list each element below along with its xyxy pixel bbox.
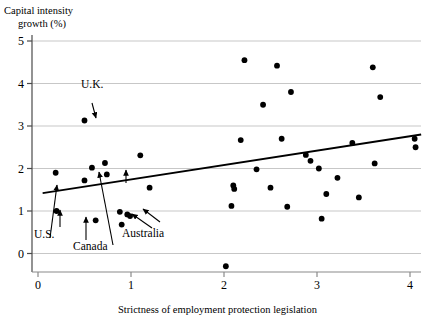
data-point [53, 170, 59, 176]
data-point [93, 217, 99, 223]
y-tick-label-2: 2 [18, 162, 24, 176]
y-tick-label-3: 3 [18, 119, 24, 133]
data-point [147, 185, 153, 191]
x-tick-label-3: 3 [314, 278, 320, 292]
data-point [370, 64, 376, 70]
data-point [231, 186, 237, 192]
data-point [260, 102, 266, 108]
x-tick-label-2: 2 [221, 278, 227, 292]
data-point [288, 89, 294, 95]
data-point [104, 172, 110, 178]
data-point [316, 166, 322, 172]
y-tick-label-1: 1 [18, 204, 24, 218]
data-point [349, 140, 355, 146]
data-point [117, 209, 123, 215]
data-point [274, 63, 280, 69]
data-point [82, 178, 88, 184]
annotation-label-australia: Australia [122, 227, 164, 239]
data-point [268, 185, 274, 191]
data-point [412, 136, 418, 142]
plot-area: 01234501234U.K.U.S.CanadaAustralia [0, 0, 429, 322]
data-point [413, 144, 419, 150]
data-point [254, 166, 260, 172]
x-tick-label-0: 0 [35, 278, 41, 292]
y-tick-label-0: 0 [18, 247, 24, 261]
data-point [279, 136, 285, 142]
scatter-chart-figure: Capital intensitygrowth (%) Strictness o… [0, 0, 429, 322]
data-point [308, 158, 314, 164]
y-tick-label-5: 5 [18, 34, 24, 48]
data-point [335, 175, 341, 181]
data-point [82, 118, 88, 124]
data-point [54, 208, 60, 214]
data-point [377, 94, 383, 100]
data-point [223, 263, 229, 269]
annotation-arrow-uk [92, 103, 96, 118]
data-point [319, 216, 325, 222]
data-point [102, 160, 108, 166]
x-tick-label-4: 4 [407, 278, 413, 292]
data-point [303, 152, 309, 158]
data-point [356, 195, 362, 201]
data-point [242, 57, 248, 63]
data-point [284, 204, 290, 210]
data-point [372, 161, 378, 167]
data-point [238, 137, 244, 143]
data-point [137, 152, 143, 158]
y-tick-label-4: 4 [18, 77, 24, 91]
annotation-label-canada: Canada [73, 240, 107, 252]
data-point [323, 191, 329, 197]
data-point [89, 165, 95, 171]
annotation-arrow-australia [132, 214, 152, 228]
data-point [229, 203, 235, 209]
annotation-label-uk: U.K. [81, 78, 103, 90]
x-tick-label-1: 1 [128, 278, 134, 292]
